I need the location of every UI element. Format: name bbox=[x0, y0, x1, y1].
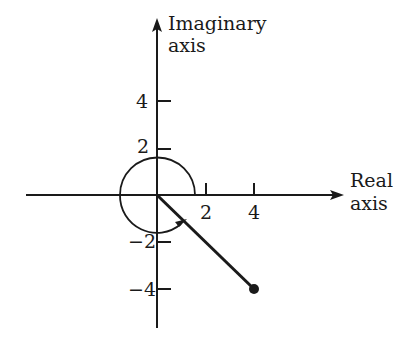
x-tick-label-4: 4 bbox=[248, 201, 260, 223]
x-tick-label-2: 2 bbox=[200, 201, 212, 223]
real-axis bbox=[26, 190, 344, 200]
x-ticks: 2 4 bbox=[200, 183, 260, 223]
complex-plane-diagram: 2 4 4 2 −2 −4 Imaginary axis Real axis bbox=[0, 0, 417, 340]
y-tick-label-neg4: −4 bbox=[128, 278, 156, 300]
y-tick-label-4: 4 bbox=[136, 90, 148, 112]
y-tick-label-2: 2 bbox=[137, 135, 149, 157]
imaginary-axis-label-line1: Imaginary bbox=[168, 12, 267, 34]
real-axis-label-line1: Real bbox=[350, 169, 393, 191]
imaginary-axis-label-line2: axis bbox=[168, 34, 206, 56]
vector-endpoint-dot bbox=[249, 284, 259, 294]
real-axis-label-line2: axis bbox=[350, 192, 388, 214]
